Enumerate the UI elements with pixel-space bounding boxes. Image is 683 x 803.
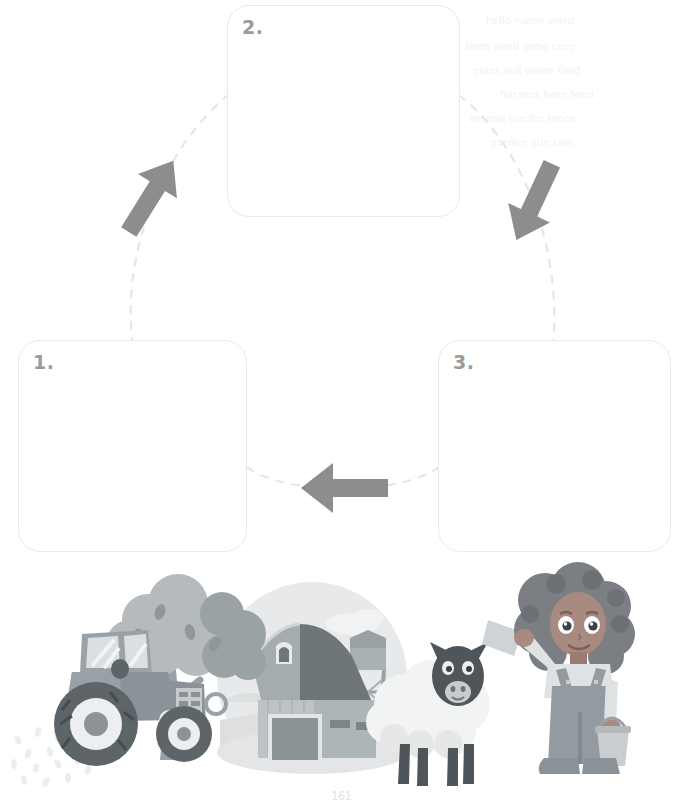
page-number: 161 bbox=[0, 789, 683, 803]
girl-shoe-left bbox=[539, 758, 580, 774]
cycle-box-3[interactable]: 3. bbox=[438, 340, 671, 552]
farm-illustration bbox=[0, 552, 683, 803]
arrow-box3-to-box1-icon bbox=[301, 463, 388, 513]
girl-shoe-right bbox=[582, 758, 620, 774]
girl-farmer-icon bbox=[482, 562, 635, 774]
cycle-box-1-number: 1. bbox=[33, 351, 54, 373]
bleed-line-6: garden sun rain bbox=[490, 136, 574, 148]
arrow-box2-to-box3-icon bbox=[496, 154, 573, 250]
girl-hand-left bbox=[514, 629, 534, 647]
bleed-line-5: animal tractor fence bbox=[470, 112, 577, 124]
bleed-line-3: plant soil water field bbox=[473, 64, 581, 76]
cycle-box-1[interactable]: 1. bbox=[18, 340, 247, 552]
arrow-box1-to-box2-icon bbox=[109, 148, 193, 244]
cycle-box-3-number: 3. bbox=[453, 351, 474, 373]
dashed-arc-2-to-3 bbox=[459, 95, 554, 345]
bleed-line-1: hello name word bbox=[486, 14, 574, 26]
bleed-line-4: harvest barn feed bbox=[500, 88, 594, 100]
cycle-box-2[interactable]: 2. bbox=[227, 5, 460, 217]
worksheet-page: hello name word farm seed grow crop plan… bbox=[0, 0, 683, 803]
dashed-arc-1-to-2 bbox=[131, 92, 232, 345]
bleed-line-2: farm seed grow crop bbox=[466, 40, 576, 52]
dashed-arc-3-to-1 bbox=[247, 467, 439, 489]
cycle-box-2-number: 2. bbox=[242, 16, 263, 38]
